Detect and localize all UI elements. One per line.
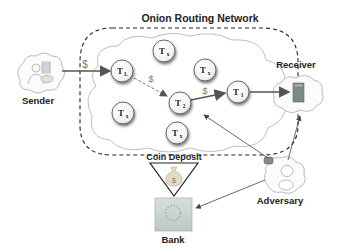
sender-label: Sender <box>22 95 55 106</box>
edge-adversary-to-receiver <box>288 116 300 160</box>
svg-text:T: T <box>172 128 178 138</box>
receiver: Receiver <box>273 59 323 113</box>
bank: Bank <box>155 198 192 245</box>
svg-text:T: T <box>118 108 124 118</box>
edge-t2-to-t1-label: $ <box>202 86 207 96</box>
sender: Sender <box>18 53 65 106</box>
bank-box <box>155 198 192 231</box>
receiver-label: Receiver <box>276 59 316 70</box>
svg-text:2: 2 <box>183 103 186 109</box>
edge-adversary-to-bank <box>196 180 265 208</box>
receiver-device-screen <box>295 85 303 87</box>
svg-text:$: $ <box>172 177 176 184</box>
svg-text:x: x <box>208 70 211 76</box>
edge-sender-to-tl-label: $ <box>82 59 88 70</box>
adversary-router-icon <box>264 157 273 164</box>
node-tx-left: T x <box>112 102 134 124</box>
svg-text:1: 1 <box>241 92 244 98</box>
coin-deposit: Coin Deposit $ <box>146 152 202 196</box>
svg-text:L: L <box>124 71 128 77</box>
adversary: Adversary <box>257 157 305 206</box>
coin-deposit-label: Coin Deposit <box>146 152 202 162</box>
svg-text:T: T <box>159 46 165 56</box>
adversary-head-icon <box>281 166 293 177</box>
node-tx-top: T x <box>153 40 175 62</box>
svg-text:x: x <box>167 51 170 57</box>
svg-text:x: x <box>126 113 129 119</box>
network-title: Onion Routing Network <box>141 12 258 24</box>
node-tl: T L <box>111 60 133 82</box>
adversary-body-icon <box>279 180 293 190</box>
svg-text:T: T <box>175 98 181 108</box>
bank-label: Bank <box>161 234 185 245</box>
node-t2: T 2 <box>169 92 191 114</box>
node-t1: T 1 <box>227 81 249 103</box>
node-tx-bottom: T x <box>166 122 188 144</box>
adversary-label: Adversary <box>257 195 304 206</box>
svg-text:T: T <box>200 65 206 75</box>
svg-text:T: T <box>117 66 123 76</box>
svg-text:x: x <box>180 133 183 139</box>
onion-routing-diagram: Onion Routing Network Sender Receiver Ad… <box>0 0 340 252</box>
edge-tl-to-t2-label: $ <box>148 74 153 84</box>
svg-text:T: T <box>233 87 239 97</box>
sender-cloud <box>18 53 65 93</box>
node-tx-right: T x <box>194 59 216 81</box>
